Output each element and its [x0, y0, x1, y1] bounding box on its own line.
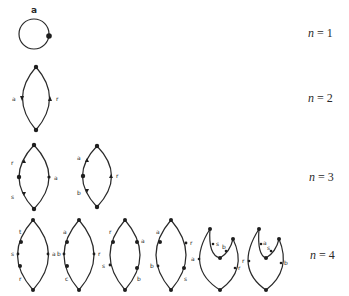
vertex-top	[32, 143, 36, 147]
edge-label: a	[156, 228, 160, 235]
equals-sign: =	[314, 26, 327, 40]
arrow-up-icon	[109, 174, 113, 178]
vertex	[234, 267, 237, 270]
edge-label: r	[11, 159, 14, 166]
vertex-bottom	[123, 288, 127, 292]
edge-label: c	[65, 275, 68, 282]
vertex	[81, 174, 85, 178]
row-label-n1: n = 1	[308, 26, 333, 41]
edge-label: a	[141, 237, 145, 244]
edge-label: b	[57, 250, 61, 257]
vertex	[135, 266, 139, 270]
vertex	[248, 260, 251, 263]
edge-label: r	[56, 95, 59, 102]
vertex-bottom	[264, 288, 268, 292]
vertex	[47, 175, 50, 178]
edge-label: a	[31, 5, 37, 15]
vertex-bottom	[32, 207, 36, 211]
edge-label: a	[52, 250, 56, 257]
vertex	[158, 240, 162, 244]
vertex	[225, 250, 228, 253]
edge-label: s	[267, 244, 270, 251]
vertex-top	[169, 218, 173, 222]
vertex-top	[77, 218, 81, 222]
edge-label: b	[150, 262, 154, 269]
vertex-top	[31, 218, 35, 222]
edge-right	[97, 146, 112, 207]
edge-label: s	[11, 250, 14, 257]
diagram-n3-a: r s a	[11, 143, 58, 211]
edge-label: s	[11, 193, 14, 200]
edge-label: r	[190, 239, 193, 246]
n-value: 3	[328, 170, 334, 184]
vertex-bottom	[95, 205, 99, 209]
equals-sign: =	[315, 170, 328, 184]
arrow-up-icon	[85, 158, 89, 162]
edge-label: a	[191, 255, 195, 262]
vertex-bottom	[77, 288, 81, 292]
edge-right	[36, 67, 50, 130]
edge-label: b	[284, 259, 288, 266]
vertex	[17, 175, 21, 179]
equals-sign: =	[314, 91, 327, 105]
diagram-n3-b: a b r	[77, 144, 119, 209]
vertex-top	[123, 218, 127, 222]
vertex-top	[208, 227, 212, 231]
edge-right	[33, 220, 49, 290]
edge-label: a	[54, 174, 58, 181]
equals-sign: =	[316, 248, 329, 262]
edge-label: s	[216, 240, 219, 247]
diagram-n1-loop: a	[19, 5, 52, 49]
n-value: 1	[327, 26, 333, 40]
vertex	[260, 243, 263, 246]
edge-left	[19, 145, 34, 209]
vertex	[218, 256, 222, 260]
vertex	[46, 33, 52, 39]
vertex	[47, 253, 50, 256]
n-value: 4	[329, 248, 335, 262]
diagram-n4-4: a b r s	[150, 218, 193, 292]
arrow-down-icon	[20, 96, 24, 101]
vertex	[212, 243, 215, 246]
vertex	[231, 237, 235, 241]
diagram-n4-1: t s r a	[11, 218, 56, 292]
edge-label: r	[109, 228, 112, 235]
vertex-top	[34, 65, 38, 69]
diagram-n2: a r	[12, 65, 59, 132]
vertex-bottom	[169, 288, 173, 292]
edge-label: r	[238, 264, 241, 271]
edge-label: r	[242, 257, 245, 264]
vertex	[157, 265, 160, 268]
loop-edge	[19, 19, 49, 49]
vertex	[65, 264, 69, 268]
vertex	[111, 240, 115, 244]
edge-label: b	[77, 189, 81, 196]
n-value: 2	[327, 91, 333, 105]
vertex	[264, 256, 268, 260]
vertex-bottom	[34, 128, 38, 132]
vertex	[93, 253, 96, 256]
vertex	[280, 262, 283, 265]
edge-label: a	[12, 95, 16, 102]
vertex-top	[257, 227, 261, 231]
graph-diagram-canvas: a a r r s a a b r	[0, 0, 349, 296]
vertex	[65, 240, 69, 244]
edge-label: t	[19, 228, 22, 235]
edge-label: r	[116, 172, 119, 179]
vertex	[17, 253, 20, 256]
row-label-n2: n = 2	[308, 91, 333, 106]
edge-label: s	[184, 275, 187, 282]
vertex	[277, 237, 281, 241]
vertex-bottom	[31, 288, 35, 292]
edge-label: r	[98, 250, 101, 257]
vertex	[182, 266, 186, 270]
vertex	[19, 240, 23, 244]
vertex	[109, 264, 112, 267]
vertex	[135, 240, 139, 244]
vertex-bottom	[218, 288, 222, 292]
diagram-n4-2: a b c r	[57, 218, 101, 292]
vertex	[18, 264, 22, 268]
edge-left	[110, 220, 125, 290]
row-label-n4: n = 4	[310, 248, 335, 263]
edge-label: b	[137, 275, 141, 282]
